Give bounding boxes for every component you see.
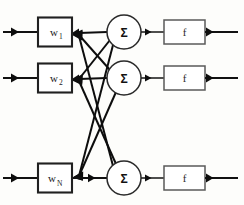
function-box-row-3[interactable]: f [164, 166, 205, 190]
sum-to-function-wire-2 [141, 74, 164, 81]
sum-node-row-3[interactable]: Σ [107, 161, 141, 195]
weight-label-3: w [48, 172, 56, 184]
sum-node-row-2[interactable]: Σ [107, 61, 141, 95]
input-wire-row-2 [3, 74, 38, 83]
weight-label-1: w [50, 26, 58, 38]
weight-box-row-1[interactable]: w 1 [38, 18, 72, 47]
sigma-label-2: Σ [120, 72, 127, 86]
sum-to-function-wire-1 [141, 28, 164, 35]
function-box-row-1[interactable]: f [164, 20, 205, 44]
sum-node-row-1[interactable]: Σ [107, 15, 141, 49]
function-label-3: f [183, 172, 187, 184]
input-wire-row-3 [3, 174, 38, 183]
sum-to-function-wire-3 [141, 174, 164, 181]
weight-box-row-3[interactable]: w N [38, 164, 72, 193]
weight-subscript-2: 2 [59, 78, 63, 87]
input-wire-row-1 [3, 28, 38, 37]
function-box-row-2[interactable]: f [164, 66, 205, 90]
output-wire-row-1 [205, 28, 238, 37]
weight-box-row-2[interactable]: w 2 [38, 64, 72, 93]
neural-layer-diagram: w 1 w 2 w N Σ Σ Σ [0, 0, 244, 205]
diagram-canvas: w 1 w 2 w N Σ Σ Σ [0, 0, 244, 205]
weight-subscript-1: 1 [59, 32, 63, 41]
function-label-2: f [183, 72, 187, 84]
output-wire-row-2 [205, 74, 238, 83]
output-wire-row-3 [205, 174, 238, 183]
function-label-1: f [183, 26, 187, 38]
sigma-label-3: Σ [120, 172, 127, 186]
sigma-label-1: Σ [120, 26, 127, 40]
weight-subscript-3: N [57, 179, 63, 188]
weight-label-2: w [50, 72, 58, 84]
connection-sum2-weight3 [72, 92, 116, 181]
